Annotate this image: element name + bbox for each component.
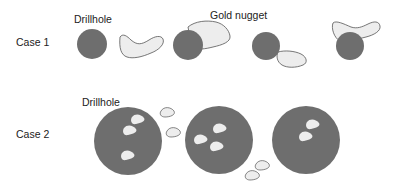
gold-nugget-shape bbox=[277, 51, 306, 67]
drillhole-circle bbox=[252, 32, 280, 60]
drillhole-label-top: Drillhole bbox=[74, 14, 112, 25]
drillhole-circle bbox=[77, 29, 107, 59]
case2-drillhole-1 bbox=[94, 107, 162, 175]
case2-drillhole-3 bbox=[272, 106, 340, 174]
case1-label: Case 1 bbox=[16, 37, 49, 48]
gold-nugget-shape bbox=[120, 35, 164, 58]
case1-scenario-a bbox=[77, 29, 163, 59]
diagram-graphics bbox=[0, 0, 394, 193]
drillhole-nugget-diagram: Case 1 Drillhole Gold nugget Case 2 Dril… bbox=[0, 0, 394, 193]
gold-nugget-small bbox=[160, 108, 174, 117]
case1-scenario-c bbox=[252, 32, 306, 67]
drillhole-label-bottom: Drillhole bbox=[82, 97, 120, 108]
gold-nugget-label: Gold nugget bbox=[210, 10, 267, 21]
gold-nugget-small bbox=[166, 128, 180, 137]
case1-scenario-b bbox=[173, 21, 230, 60]
case1-scenario-d bbox=[332, 22, 380, 60]
gold-nugget-small bbox=[245, 171, 259, 180]
gold-nugget-small bbox=[255, 161, 269, 170]
case2-outside-nuggets-a bbox=[160, 108, 180, 137]
case2-drillhole-2 bbox=[185, 106, 253, 174]
drillhole-circle bbox=[173, 30, 203, 60]
drillhole-circle bbox=[94, 107, 162, 175]
drillhole-circle bbox=[336, 32, 364, 60]
case2-outside-nuggets-b bbox=[245, 161, 269, 180]
case2-label: Case 2 bbox=[16, 129, 49, 140]
